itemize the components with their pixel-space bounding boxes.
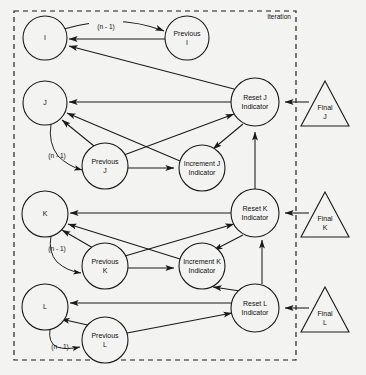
edge-previous-l-to-reset-l (127, 313, 232, 333)
edge-previous-k-to-k (62, 230, 93, 248)
edge-reset-j-to-increment-j (213, 124, 243, 149)
node-layer: I PreviousI J PreviousJ Increment JIndic… (22, 16, 349, 363)
edge-label-n-minus-1-i: (n - 1) (97, 23, 115, 31)
node-i-label: I (44, 34, 46, 41)
edge-reset-l-to-increment-k (213, 287, 240, 291)
node-j-label: J (43, 99, 47, 106)
edge-j-to-previous-j (50, 124, 82, 170)
edge-label-n-minus-1-j: (n - 1) (48, 152, 66, 160)
diagram-svg: Iteration (0, 0, 366, 375)
diagram-canvas: Iteration (0, 0, 366, 375)
edge-label-n-minus-1-k: (n - 1) (48, 245, 66, 253)
node-l-label: L (43, 303, 47, 310)
edge-label-n-minus-1-l: (n - 1) (51, 343, 69, 351)
edge-reset-k-to-increment-k (214, 235, 243, 250)
edge-previous-j-to-reset-j (124, 114, 234, 155)
iteration-label: Iteration (267, 13, 291, 20)
edge-reset-j-to-i (69, 46, 234, 89)
node-k-label: K (43, 210, 48, 217)
edge-previous-j-to-j (62, 120, 94, 146)
edge-k-to-previous-k (50, 236, 81, 273)
